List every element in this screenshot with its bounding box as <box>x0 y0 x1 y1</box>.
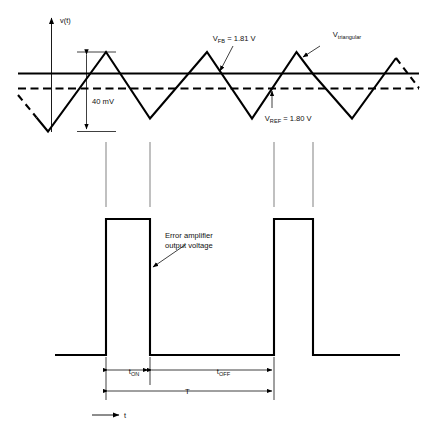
t-on-label: tON <box>114 367 150 378</box>
vref-label: VREF = 1.80 V <box>250 114 322 124</box>
t-off-label: tOFF <box>202 367 241 378</box>
vfb-value: = 1.81 V <box>225 34 257 43</box>
period-label: T <box>185 387 190 396</box>
pulse-train-waveform <box>55 219 400 355</box>
triangular-waveform <box>18 52 419 132</box>
vref-value: = 1.80 V <box>281 114 313 123</box>
label-40mv: 40 mV <box>92 97 115 106</box>
t-on-subscript: ON <box>131 371 139 377</box>
vtriangular-leader-line <box>303 46 320 57</box>
error-amp-label-line2: output voltage <box>165 241 213 250</box>
vref-subscript: REF <box>270 118 282 124</box>
waveform-figure: v(t) 40 mV VFB = <box>0 0 430 436</box>
error-amp-label-line1: Error amplifier <box>165 231 213 240</box>
axis-label-t: t <box>124 411 126 420</box>
t-off-subscript: OFF <box>219 371 231 377</box>
guide-lines <box>106 142 313 207</box>
axis-label-vt: v(t) <box>60 16 71 25</box>
timing-extension-lines <box>106 357 274 400</box>
vtriangular-label: Vtriangular <box>318 30 372 41</box>
vtriangular-subscript: triangular <box>338 34 361 40</box>
vfb-label: VFB = 1.81 V <box>198 34 266 44</box>
vfb-leader-line <box>220 46 233 71</box>
